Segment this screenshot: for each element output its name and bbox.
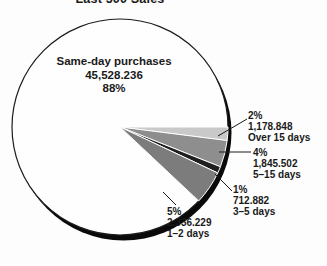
slice-label-same-day-name: Same-day purchases <box>44 55 184 69</box>
slice-pct: 1% <box>233 184 275 195</box>
slice-range: 1–2 days <box>167 228 212 239</box>
slice-value: 1,845.502 <box>253 158 301 169</box>
slice-pct: 5% <box>167 206 212 217</box>
slice-range: Over 15 days <box>248 132 310 143</box>
slice-value: 2,336.229 <box>167 217 212 228</box>
slice-pct: 4% <box>253 147 301 158</box>
slice-pct: 2% <box>248 110 310 121</box>
slice-label-over-15-days: 2% 1,178.848 Over 15 days <box>248 110 310 143</box>
slice-range: 3–5 days <box>233 206 275 217</box>
slice-range: 5–15 days <box>253 169 301 180</box>
slice-value: 712.882 <box>233 195 275 206</box>
slice-label-5-15-days: 4% 1,845.502 5–15 days <box>253 147 301 180</box>
slice-label-same-day: Same-day purchases 45,528.236 88% <box>44 55 184 96</box>
slice-label-3-5-days: 1% 712.882 3–5 days <box>233 184 275 217</box>
slice-label-1-2-days: 5% 2,336.229 1–2 days <box>167 206 212 239</box>
pie-chart-figure: Last 500 Sales Same-day purchases 45,528… <box>0 0 327 266</box>
slice-value: 1,178.848 <box>248 121 310 132</box>
slice-label-same-day-value: 45,528.236 <box>44 69 184 83</box>
slice-label-same-day-pct: 88% <box>44 82 184 96</box>
